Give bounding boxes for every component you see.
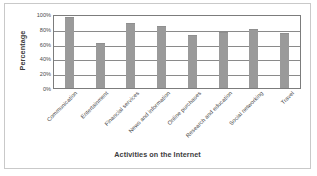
- bar-slot: [146, 16, 177, 88]
- bar-slot: [177, 16, 208, 88]
- bar: [249, 29, 258, 88]
- bar-slot: [54, 16, 85, 88]
- x-tick-label-text: Online purchases: [166, 90, 202, 126]
- plot-area: [53, 15, 301, 89]
- bar: [219, 32, 228, 88]
- y-axis-tick-labels: 0%20%40%60%80%100%: [23, 12, 51, 90]
- bar-chart: Percentage 0%20%40%60%80%100% Communicat…: [5, 4, 310, 168]
- bar-slot: [116, 16, 147, 88]
- bar: [280, 33, 289, 89]
- bar-slot: [269, 16, 300, 88]
- y-tick-label: 80%: [40, 27, 51, 33]
- chart-figure-frame: Percentage 0%20%40%60%80%100% Communicat…: [4, 3, 311, 169]
- x-axis-tick-labels: CommunicationEntertainmentFinancial serv…: [53, 90, 301, 148]
- y-tick-label: 40%: [40, 56, 51, 62]
- bar-slot: [239, 16, 270, 88]
- bar-slot: [208, 16, 239, 88]
- bar: [96, 43, 105, 88]
- y-tick-label: 20%: [40, 71, 51, 77]
- x-tick-label-text: Communication: [45, 90, 78, 123]
- x-axis-title: Activities on the Internet: [5, 150, 310, 159]
- x-tick-label-text: Entertainment: [79, 90, 109, 120]
- bar: [126, 23, 135, 88]
- y-tick-label: 100%: [37, 12, 51, 18]
- bar: [188, 35, 197, 88]
- x-tick-label-text: Social networking: [227, 90, 263, 126]
- y-tick-label: 60%: [40, 42, 51, 48]
- bar: [65, 17, 74, 88]
- bar: [157, 26, 166, 88]
- x-tick-label-text: Travel: [279, 90, 294, 105]
- bar-slot: [85, 16, 116, 88]
- bar-series: [54, 16, 300, 88]
- y-tick-label: 0%: [43, 86, 51, 92]
